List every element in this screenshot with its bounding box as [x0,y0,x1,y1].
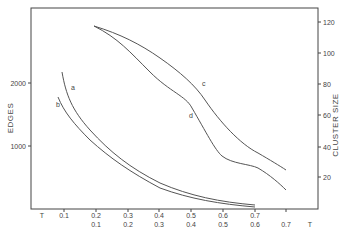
chart: 2000 1000 EDGES 120 100 80 60 40 20 CLUS… [0,0,347,235]
x-axis-label-lower: T [308,221,313,228]
left-y-axis: 2000 1000 EDGES [6,80,31,150]
y2-tick-20: 20 [323,174,331,181]
x-tick-lower: 0.3 [154,221,164,228]
y2-axis-label-cluster-size: CLUSTER SIZE [331,93,340,156]
x-tick-upper: 0.6 [218,212,228,219]
x-tick-lower: 0.5 [218,221,228,228]
y-tick-1000: 1000 [10,143,26,150]
x-tick-lower: 0.2 [123,221,133,228]
curve-label-d: d [189,112,193,119]
x-tick-lower: 0.7 [281,221,291,228]
y2-tick-60: 60 [323,112,331,119]
curve-c [94,26,286,170]
x-tick-upper: 0.2 [91,212,101,219]
x-axis: T 0.1 0.2 0.3 0.4 0.5 0.6 0.7 0.1 0.2 0.… [40,209,313,228]
x-tick-lower: 0.6 [250,221,260,228]
curve-b [58,97,255,207]
y2-tick-80: 80 [323,81,331,88]
curve-label-c: c [202,80,206,87]
x-tick-upper: 0.3 [123,212,133,219]
curve-label-b: b [56,101,60,108]
y-tick-2000: 2000 [10,80,26,87]
x-tick-upper: 0.4 [154,212,164,219]
x-tick-upper: 0.5 [186,212,196,219]
x-axis-label-upper: T [40,212,45,219]
y2-tick-40: 40 [323,144,331,151]
y-axis-label-edges: EDGES [6,103,15,134]
x-tick-lower: 0.4 [186,221,196,228]
curve-label-a: a [71,84,75,91]
x-tick-upper: 0.1 [59,212,69,219]
x-tick-upper: 0.7 [250,212,260,219]
y2-tick-120: 120 [323,19,335,26]
y2-tick-100: 100 [323,50,335,57]
x-tick-lower: 0.1 [91,221,101,228]
right-y-axis: 120 100 80 60 40 20 CLUSTER SIZE [318,19,340,181]
curve-a [62,72,255,205]
